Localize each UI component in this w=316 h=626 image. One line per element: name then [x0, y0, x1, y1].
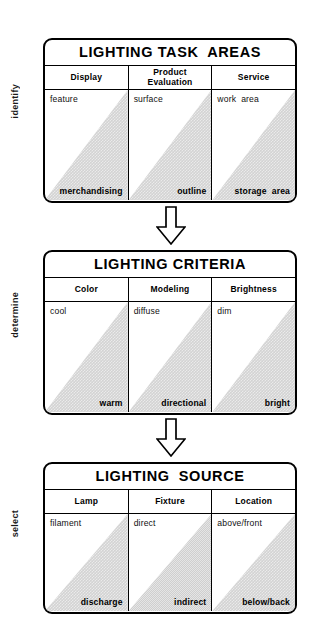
column-end-value: directional: [161, 398, 206, 408]
column-header: Fixture: [129, 490, 212, 514]
stage-select: select LIGHTING SOURCE Lamp filament dis…: [0, 462, 316, 614]
column-start-value: filament: [50, 518, 81, 528]
column-body: direct indirect: [129, 514, 212, 611]
column-start-value: direct: [134, 518, 156, 528]
column-service[interactable]: Service work area storage area: [212, 66, 295, 200]
column-header: Modeling: [129, 278, 212, 302]
column-end-value: outline: [177, 186, 206, 196]
stage-side-label-select: select: [10, 510, 30, 537]
gradient-wedge-shape: [129, 302, 212, 412]
column-body: work area storage area: [212, 90, 295, 200]
panel-title: LIGHTING CRITERIA: [45, 252, 295, 278]
gradient-wedge-shape: [45, 90, 128, 200]
column-body: feature merchandising: [45, 90, 128, 200]
column-header: Service: [212, 66, 295, 90]
lighting-design-diagram: identify LIGHTING TASK AREAS Display fea…: [0, 0, 316, 626]
column-body: filament discharge: [45, 514, 128, 611]
column-lamp[interactable]: Lamp filament discharge: [45, 490, 129, 611]
column-end-value: bright: [265, 398, 290, 408]
panel-lighting-source: LIGHTING SOURCE Lamp filament discharge …: [43, 462, 297, 614]
gradient-wedge-shape: [212, 90, 295, 200]
stage-side-label-identify: identify: [10, 84, 30, 118]
column-start-value: cool: [50, 306, 66, 316]
column-body: dim bright: [212, 302, 295, 412]
column-header: Product Evaluation: [129, 66, 212, 90]
column-body: cool warm: [45, 302, 128, 412]
down-arrow-icon: [156, 206, 186, 246]
gradient-wedge-shape: [45, 302, 128, 412]
column-body: surface outline: [129, 90, 212, 200]
column-start-value: feature: [50, 94, 78, 104]
column-header: Brightness: [212, 278, 295, 302]
column-header: Location: [212, 490, 295, 514]
column-display[interactable]: Display feature merchandising: [45, 66, 129, 200]
gradient-wedge-shape: [212, 302, 295, 412]
panel-columns: Color cool warm Modeling diffuse directi…: [45, 278, 295, 412]
column-fixture[interactable]: Fixture direct indirect: [129, 490, 213, 611]
column-end-value: indirect: [174, 597, 206, 607]
panel-columns: Lamp filament discharge Fixture direct i…: [45, 490, 295, 611]
stage-identify: identify LIGHTING TASK AREAS Display fea…: [0, 38, 316, 203]
gradient-wedge-shape: [129, 90, 212, 200]
panel-title: LIGHTING TASK AREAS: [45, 40, 295, 66]
down-arrow-icon: [156, 418, 186, 458]
column-header: Display: [45, 66, 128, 90]
column-header: Lamp: [45, 490, 128, 514]
column-start-value: dim: [217, 306, 231, 316]
panel-lighting-criteria: LIGHTING CRITERIA Color cool warm Modeli…: [43, 250, 297, 415]
column-color[interactable]: Color cool warm: [45, 278, 129, 412]
column-start-value: diffuse: [134, 306, 160, 316]
column-product-evaluation[interactable]: Product Evaluation surface outline: [129, 66, 213, 200]
column-modeling[interactable]: Modeling diffuse directional: [129, 278, 213, 412]
column-location[interactable]: Location above/front below/back: [212, 490, 295, 611]
column-end-value: storage area: [235, 186, 290, 196]
column-start-value: surface: [134, 94, 163, 104]
panel-title: LIGHTING SOURCE: [45, 464, 295, 490]
column-end-value: discharge: [81, 597, 123, 607]
panel-lighting-task-areas: LIGHTING TASK AREAS Display feature merc…: [43, 38, 297, 203]
column-header: Color: [45, 278, 128, 302]
column-end-value: warm: [100, 398, 123, 408]
column-start-value: above/front: [217, 518, 262, 528]
stage-side-label-determine: determine: [10, 292, 30, 338]
stage-determine: determine LIGHTING CRITERIA Color cool w…: [0, 250, 316, 415]
panel-columns: Display feature merchandising Product Ev…: [45, 66, 295, 200]
column-brightness[interactable]: Brightness dim bright: [212, 278, 295, 412]
column-end-value: merchandising: [60, 186, 123, 196]
column-end-value: below/back: [242, 597, 290, 607]
column-body: diffuse directional: [129, 302, 212, 412]
column-start-value: work area: [217, 94, 259, 104]
column-body: above/front below/back: [212, 514, 295, 611]
